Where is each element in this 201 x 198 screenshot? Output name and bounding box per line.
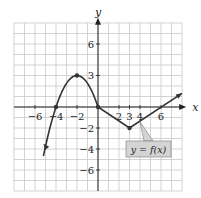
y-tick-label: −4 <box>79 144 94 155</box>
x-axis-arrow-icon <box>179 104 186 110</box>
function-graph: xy −6−4−2234663−2−4−6 y = f(x) <box>0 0 201 198</box>
key-point-marker <box>127 126 131 130</box>
callout-label: y = f(x) <box>130 144 167 155</box>
y-tick-label: 3 <box>88 70 94 81</box>
x-tick-label: −6 <box>28 111 43 122</box>
y-tick-label: −2 <box>79 123 94 134</box>
key-point-marker <box>75 73 79 77</box>
key-point-marker <box>54 105 58 109</box>
x-tick-label: 6 <box>158 111 164 122</box>
x-tick-label: 3 <box>126 111 132 122</box>
y-tick-label: −6 <box>79 165 94 176</box>
x-tick-label: −4 <box>49 111 64 122</box>
y-axis-label: y <box>94 6 102 19</box>
x-axis-label: x <box>192 101 199 114</box>
y-tick-label: 6 <box>88 39 94 50</box>
function-label-callout: y = f(x) <box>126 122 171 157</box>
x-tick-label: −2 <box>70 111 85 122</box>
y-axis-arrow-icon <box>95 18 101 25</box>
key-point-marker <box>96 105 100 109</box>
